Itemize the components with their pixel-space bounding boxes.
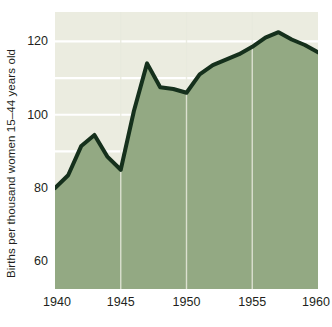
chart-plot-svg — [55, 12, 318, 289]
chart-container: Births per thousand women 15–44 years ol… — [0, 0, 332, 327]
plot-area — [55, 12, 318, 289]
x-tick-label: 1940 — [43, 295, 71, 309]
x-tick-label: 1945 — [107, 295, 135, 309]
x-tick-label: 1955 — [238, 295, 266, 309]
x-tick-label: 1960 — [302, 295, 330, 309]
x-tick-label: 1950 — [173, 295, 201, 309]
y-axis-title: Births per thousand women 15–44 years ol… — [0, 0, 22, 327]
x-axis-tick-labels: 19401945195019551960 — [0, 295, 332, 315]
